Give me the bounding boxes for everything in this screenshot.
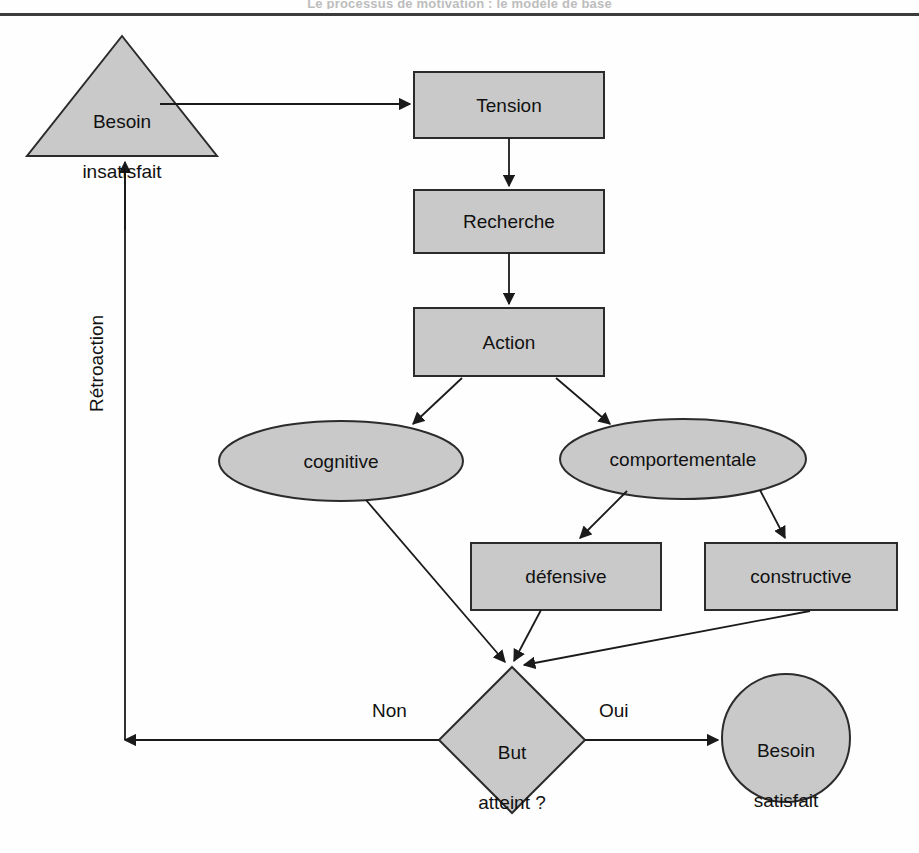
edge-action-cognitive (413, 378, 462, 424)
node-besoin-insatisfait[interactable] (27, 36, 217, 156)
edge-comportementale-constructive (760, 490, 785, 538)
node-recherche[interactable] (414, 190, 604, 253)
flowchart-canvas (0, 0, 919, 853)
node-but-atteint[interactable] (439, 667, 585, 813)
edge-constructive-but-atteint (524, 611, 810, 665)
node-comportementale[interactable] (560, 419, 806, 499)
edge-label-oui: Oui (599, 700, 629, 722)
node-besoin-satisfait[interactable] (722, 674, 850, 802)
diagram-page: Le processus de motivation : le modèle d… (0, 0, 919, 853)
edge-action-comportementale (556, 378, 610, 424)
edge-label-retroaction: Rétroaction (86, 292, 108, 412)
node-constructive[interactable] (705, 543, 897, 610)
edge-label-non: Non (372, 700, 407, 722)
node-action[interactable] (414, 308, 604, 376)
edge-defensive-but-atteint (514, 610, 541, 661)
node-tension[interactable] (414, 72, 604, 138)
edge-comportementale-defensive (580, 491, 627, 538)
node-defensive[interactable] (471, 543, 661, 610)
node-cognitive[interactable] (219, 421, 463, 501)
